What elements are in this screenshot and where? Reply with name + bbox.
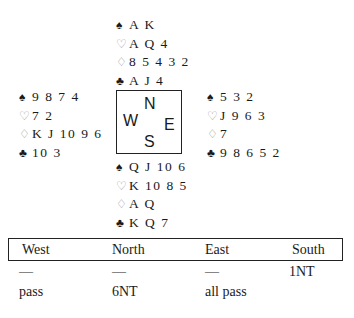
west-clubs-cards: 10 3 [32, 145, 62, 160]
compass-east: E [164, 116, 175, 134]
east-clubs-cards: 9 8 6 5 2 [220, 145, 281, 160]
diamond-icon: ♢ [207, 125, 220, 144]
compass-north: N [144, 95, 156, 113]
west-hearts: ♡7 2 [19, 107, 103, 126]
east-clubs: ♣9 8 6 5 2 [207, 144, 281, 163]
west-hearts-cards: 7 2 [32, 108, 53, 123]
north-diamonds: ♢8 5 4 3 2 [116, 53, 190, 72]
north-hand: ♠A K ♡A Q 4 ♢8 5 4 3 2 ♣A J 4 [116, 16, 190, 90]
header-south: South [292, 242, 325, 258]
spade-icon: ♠ [116, 158, 129, 177]
header-north: North [112, 242, 145, 258]
south-diamonds: ♢A Q [116, 195, 188, 214]
spade-icon: ♠ [116, 16, 129, 35]
club-icon: ♣ [116, 214, 129, 233]
heart-icon: ♡ [116, 35, 129, 54]
east-diamonds-cards: 7 [220, 126, 228, 141]
compass-south: S [144, 133, 155, 151]
header-west: West [22, 242, 50, 258]
north-hearts-cards: A Q 4 [129, 36, 169, 51]
east-hearts-cards: J 9 6 3 [220, 108, 266, 123]
south-spades-cards: Q J 10 6 [129, 159, 186, 174]
bid: 6NT [112, 284, 138, 300]
west-spades: ♠9 8 7 4 [19, 88, 103, 107]
heart-icon: ♡ [207, 107, 220, 126]
north-diamonds-cards: 8 5 4 3 2 [129, 54, 190, 69]
south-hearts-cards: K 10 8 5 [129, 178, 188, 193]
west-hand: ♠9 8 7 4 ♡7 2 ♢K J 10 9 6 ♣10 3 [19, 88, 103, 162]
north-clubs-cards: A J 4 [129, 73, 164, 88]
spade-icon: ♠ [19, 88, 32, 107]
club-icon: ♣ [116, 72, 129, 91]
west-spades-cards: 9 8 7 4 [32, 89, 80, 104]
diamond-icon: ♢ [116, 195, 129, 214]
bid: all pass [205, 284, 247, 300]
east-spades-cards: 5 3 2 [220, 89, 255, 104]
south-diamonds-cards: A Q [129, 196, 156, 211]
bid: — [205, 264, 219, 280]
east-diamonds: ♢7 [207, 125, 281, 144]
auction-row: — — — 1NT [8, 264, 343, 282]
south-clubs-cards: K Q 7 [129, 215, 170, 230]
spade-icon: ♠ [207, 88, 220, 107]
diamond-icon: ♢ [19, 125, 32, 144]
east-spades: ♠5 3 2 [207, 88, 281, 107]
club-icon: ♣ [19, 144, 32, 163]
west-clubs: ♣10 3 [19, 144, 103, 163]
compass-box: N W E S [116, 90, 182, 154]
south-clubs: ♣K Q 7 [116, 214, 188, 233]
header-east: East [205, 242, 229, 258]
east-hearts: ♡J 9 6 3 [207, 107, 281, 126]
bid: 1NT [289, 264, 315, 280]
north-spades-cards: A K [129, 17, 156, 32]
north-hearts: ♡A Q 4 [116, 35, 190, 54]
south-hand: ♠Q J 10 6 ♡K 10 8 5 ♢A Q ♣K Q 7 [116, 158, 188, 232]
heart-icon: ♡ [19, 107, 32, 126]
compass-west: W [123, 112, 138, 130]
north-clubs: ♣A J 4 [116, 72, 190, 91]
west-diamonds-cards: K J 10 9 6 [32, 126, 103, 141]
bid: — [112, 264, 126, 280]
west-diamonds: ♢K J 10 9 6 [19, 125, 103, 144]
auction-row: pass 6NT all pass [8, 284, 343, 302]
south-hearts: ♡K 10 8 5 [116, 177, 188, 196]
club-icon: ♣ [207, 144, 220, 163]
east-hand: ♠5 3 2 ♡J 9 6 3 ♢7 ♣9 8 6 5 2 [207, 88, 281, 162]
bid: — [19, 264, 33, 280]
north-spades: ♠A K [116, 16, 190, 35]
auction-header: West North East South [8, 238, 343, 261]
south-spades: ♠Q J 10 6 [116, 158, 188, 177]
heart-icon: ♡ [116, 177, 129, 196]
diamond-icon: ♢ [116, 53, 129, 72]
bid: pass [19, 284, 43, 300]
